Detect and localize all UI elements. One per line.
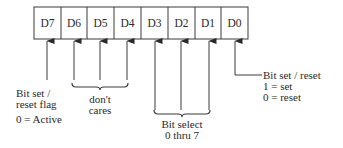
arrow-d0-icon — [235, 41, 262, 75]
d0-label-line3: 0 = reset — [263, 91, 301, 103]
d7-label-line3: 0 = Active — [16, 113, 62, 125]
brace-bit-select-icon — [154, 110, 210, 117]
cell-d0: D0 — [227, 17, 241, 29]
cell-d2: D2 — [174, 17, 188, 29]
cell-d4: D4 — [120, 17, 134, 29]
brace-dont-cares-icon — [72, 83, 128, 90]
dont-cares-line2: cares — [89, 104, 112, 116]
cell-d5: D5 — [93, 17, 107, 29]
cell-d6: D6 — [67, 17, 81, 29]
bit-register-diagram: D7 D6 D5 D4 D3 D2 D1 D0 Bit set / reset … — [0, 0, 343, 148]
bit-select-line2: 0 thru 7 — [165, 129, 200, 141]
cell-d1: D1 — [201, 17, 215, 29]
d7-label-line2: reset flag — [16, 98, 57, 110]
cell-d7: D7 — [40, 17, 54, 29]
cell-d3: D3 — [147, 17, 161, 29]
